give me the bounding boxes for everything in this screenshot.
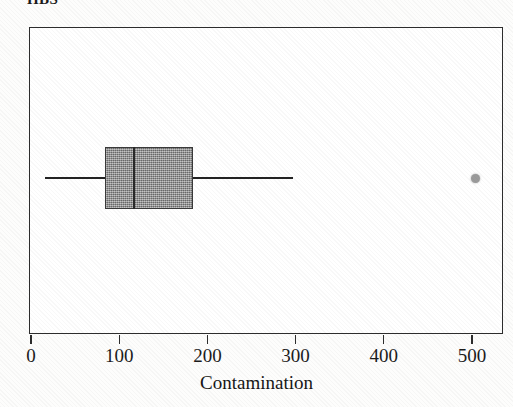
plot-area — [30, 28, 502, 333]
x-tick-label-400: 400 — [370, 345, 399, 367]
x-tick-label-500: 500 — [458, 345, 487, 367]
x-axis-label: Contamination — [0, 372, 513, 394]
x-tick-400 — [383, 335, 384, 344]
x-tick-300 — [295, 335, 296, 344]
x-tick-500 — [471, 335, 472, 344]
median-line — [133, 147, 135, 209]
x-tick-0 — [30, 335, 31, 344]
x-tick-label-100: 100 — [105, 345, 134, 367]
whisker-left — [45, 177, 105, 179]
box-iqr — [105, 147, 193, 209]
whisker-right — [193, 177, 293, 179]
x-tick-label-300: 300 — [281, 345, 310, 367]
x-tick-100 — [119, 335, 120, 344]
plot-frame — [29, 27, 503, 334]
x-tick-label-0: 0 — [26, 345, 36, 367]
figure-title: HBS — [27, 0, 58, 8]
x-tick-label-200: 200 — [193, 345, 222, 367]
x-tick-200 — [207, 335, 208, 344]
outlier-point — [471, 174, 480, 183]
